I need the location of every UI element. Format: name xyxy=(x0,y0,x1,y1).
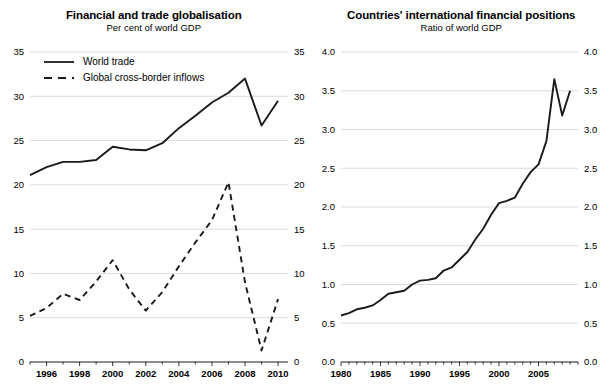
svg-text:0: 0 xyxy=(19,356,24,367)
panel-countries-international-financial-positions: Countries' international financial posit… xyxy=(308,0,615,392)
legend-item-world-trade: World trade xyxy=(44,54,204,70)
svg-text:1998: 1998 xyxy=(69,368,90,379)
svg-text:25: 25 xyxy=(13,135,24,146)
svg-text:35: 35 xyxy=(294,46,305,57)
svg-text:35: 35 xyxy=(13,46,24,57)
svg-text:1985: 1985 xyxy=(369,368,391,379)
svg-text:30: 30 xyxy=(294,91,305,102)
svg-text:2.5: 2.5 xyxy=(321,163,334,174)
svg-text:0.0: 0.0 xyxy=(584,356,597,367)
svg-text:1990: 1990 xyxy=(409,368,430,379)
svg-text:10: 10 xyxy=(294,268,305,279)
svg-text:2004: 2004 xyxy=(168,368,190,379)
svg-text:2005: 2005 xyxy=(527,368,549,379)
svg-text:30: 30 xyxy=(13,91,24,102)
svg-text:0.5: 0.5 xyxy=(321,318,334,329)
figure-container: Financial and trade globalisation Per ce… xyxy=(0,0,615,392)
svg-text:2.0: 2.0 xyxy=(584,201,597,212)
svg-text:1.0: 1.0 xyxy=(584,279,597,290)
svg-text:3.0: 3.0 xyxy=(584,124,597,135)
svg-text:15: 15 xyxy=(294,224,305,235)
legend-line-solid-icon xyxy=(44,57,74,67)
legend-line-dashed-icon xyxy=(44,73,74,83)
legend-label-world-trade: World trade xyxy=(83,54,135,70)
svg-text:3.0: 3.0 xyxy=(321,124,334,135)
svg-text:3.5: 3.5 xyxy=(321,85,334,96)
legend-item-global-cross-border-inflows: Global cross-border inflows xyxy=(44,70,204,86)
svg-text:3.5: 3.5 xyxy=(584,85,597,96)
series-line-global-cross-border-inflows xyxy=(30,182,278,350)
svg-text:1980: 1980 xyxy=(330,368,351,379)
right-chart-plot: 0.00.00.50.51.01.01.51.52.02.02.52.53.03… xyxy=(308,0,615,392)
svg-text:5: 5 xyxy=(294,312,299,323)
svg-text:0: 0 xyxy=(294,356,299,367)
svg-text:2000: 2000 xyxy=(488,368,509,379)
svg-text:2.5: 2.5 xyxy=(584,163,597,174)
panel-financial-and-trade-globalisation: Financial and trade globalisation Per ce… xyxy=(0,0,308,392)
svg-text:1.0: 1.0 xyxy=(321,279,334,290)
svg-text:15: 15 xyxy=(13,224,24,235)
legend-left: World trade Global cross-border inflows xyxy=(44,54,204,86)
svg-text:0.5: 0.5 xyxy=(584,318,597,329)
svg-text:2.0: 2.0 xyxy=(321,201,334,212)
svg-text:2010: 2010 xyxy=(268,368,289,379)
svg-text:20: 20 xyxy=(294,179,305,190)
svg-text:1.5: 1.5 xyxy=(584,240,597,251)
svg-text:10: 10 xyxy=(13,268,24,279)
svg-text:1995: 1995 xyxy=(448,368,470,379)
svg-text:5: 5 xyxy=(19,312,24,323)
svg-text:4.0: 4.0 xyxy=(584,46,597,57)
svg-text:20: 20 xyxy=(13,179,24,190)
svg-text:2008: 2008 xyxy=(234,368,255,379)
svg-text:2000: 2000 xyxy=(102,368,123,379)
legend-label-global-cross-border-inflows: Global cross-border inflows xyxy=(83,70,204,86)
svg-text:2006: 2006 xyxy=(201,368,222,379)
svg-text:1.5: 1.5 xyxy=(321,240,334,251)
series-line-international-financial-positions xyxy=(341,79,570,315)
svg-text:0.0: 0.0 xyxy=(321,356,334,367)
svg-text:25: 25 xyxy=(294,135,305,146)
series-line-world-trade xyxy=(30,79,278,176)
svg-text:1996: 1996 xyxy=(36,368,57,379)
svg-text:4.0: 4.0 xyxy=(321,46,334,57)
svg-text:2002: 2002 xyxy=(135,368,156,379)
